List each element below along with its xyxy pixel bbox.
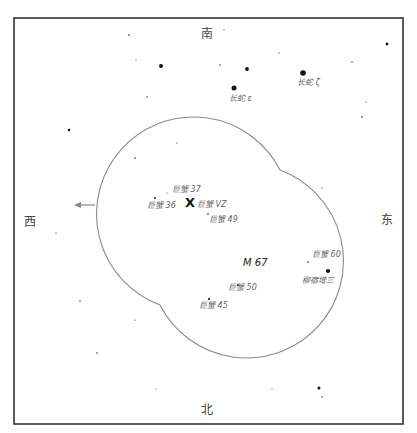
star bbox=[176, 142, 177, 143]
label-cnc50: 巨蟹 50 bbox=[228, 283, 257, 292]
label-cnc60: 巨蟹 60 bbox=[312, 250, 341, 259]
star bbox=[232, 86, 237, 91]
star bbox=[318, 387, 321, 390]
label-acubens: 柳宿增三 bbox=[302, 276, 335, 285]
label-hya-zeta: 长蛇 ζ bbox=[297, 78, 321, 87]
star bbox=[146, 96, 147, 97]
star bbox=[361, 116, 363, 118]
star bbox=[79, 300, 80, 301]
star bbox=[219, 64, 220, 65]
label-cnc-vz: 巨蟹 VZ bbox=[197, 200, 227, 209]
star bbox=[156, 389, 157, 390]
star bbox=[278, 52, 279, 53]
label-cnc49: 巨蟹 49 bbox=[209, 215, 238, 224]
label-hya-epsilon: 长蛇 ε bbox=[229, 94, 253, 103]
star bbox=[351, 61, 352, 62]
direction-north: 北 bbox=[201, 403, 213, 417]
star bbox=[321, 187, 322, 188]
star bbox=[154, 197, 156, 199]
label-cnc45: 巨蟹 45 bbox=[199, 301, 228, 310]
direction-west: 西 bbox=[24, 215, 36, 229]
star bbox=[365, 101, 366, 102]
label-m67: M 67 bbox=[243, 257, 268, 268]
star bbox=[167, 193, 168, 194]
star bbox=[386, 43, 389, 46]
star bbox=[307, 261, 309, 263]
star bbox=[245, 67, 249, 71]
star bbox=[223, 29, 224, 30]
star bbox=[134, 157, 136, 159]
star bbox=[159, 64, 163, 68]
star bbox=[300, 70, 306, 76]
direction-east: 东 bbox=[381, 213, 393, 227]
label-cnc37: 巨蟹 37 bbox=[172, 185, 202, 194]
star bbox=[326, 269, 330, 273]
star bbox=[321, 396, 322, 397]
direction-south: 南 bbox=[201, 26, 213, 41]
star bbox=[208, 298, 210, 300]
star bbox=[134, 319, 135, 320]
star bbox=[135, 59, 136, 60]
star bbox=[68, 129, 71, 132]
star-chart: 南 北 西 东 长蛇 ε 长蛇 ζ 巨蟹 37 巨蟹 36 巨蟹 VZ 巨蟹 4… bbox=[0, 0, 417, 433]
star bbox=[272, 389, 273, 390]
label-cnc36: 巨蟹 36 bbox=[147, 201, 176, 210]
star bbox=[128, 34, 130, 36]
star bbox=[55, 232, 56, 233]
star bbox=[96, 352, 97, 353]
target-marker-x: X bbox=[185, 195, 195, 210]
